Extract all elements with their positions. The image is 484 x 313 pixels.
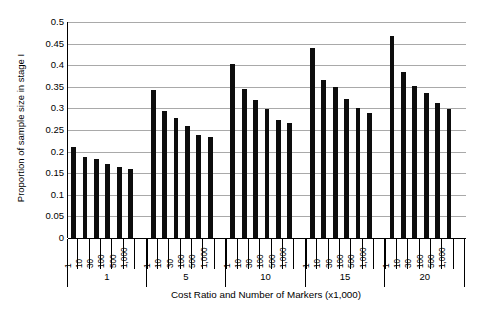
y-tick-label: 0.1 <box>34 190 64 200</box>
y-tick-label: 0.25 <box>34 125 64 135</box>
x-category-label: 500 <box>268 254 277 268</box>
x-category-label: 1,000 <box>200 248 209 269</box>
x-category-label: 30 <box>245 259 254 268</box>
x-category-label: 1,000 <box>438 248 447 269</box>
bar <box>424 93 429 238</box>
bar <box>162 111 167 238</box>
x-category-label: 500 <box>188 254 197 268</box>
gridline <box>68 22 466 23</box>
gridline <box>68 44 466 45</box>
x-category-label: 30 <box>166 259 175 268</box>
bar-chart-figure: Proportion of sample size in stage I 0.5… <box>0 0 484 313</box>
x-category-label: 10 <box>313 259 322 268</box>
x-group-label: 1 <box>67 269 147 287</box>
x-category-label: 10 <box>75 259 84 268</box>
bar <box>367 113 372 238</box>
x-category-label: 30 <box>404 259 413 268</box>
y-tick-label: 0.45 <box>34 39 64 49</box>
x-category-label: 100 <box>256 254 265 268</box>
x-category-spacer <box>454 239 465 269</box>
bar <box>196 135 201 238</box>
bar <box>333 87 338 238</box>
bar <box>412 86 417 238</box>
x-category-cell: 1,000 <box>363 239 374 269</box>
x-category-label: 1 <box>382 263 391 268</box>
x-group-label: 5 <box>147 269 227 287</box>
bar <box>208 137 213 238</box>
bar <box>117 167 122 238</box>
x-category-label: 1 <box>143 263 152 268</box>
plot-area <box>67 22 466 238</box>
x-category-label: 30 <box>325 259 334 268</box>
bar <box>105 164 110 238</box>
x-category-label: 100 <box>177 254 186 268</box>
x-category-label: 1 <box>223 263 232 268</box>
bar <box>310 48 315 238</box>
x-group-label: 10 <box>226 269 306 287</box>
x-category-cell: 1,000 <box>283 239 294 269</box>
x-category-label: 100 <box>336 254 345 268</box>
x-axis-category-labels: 110301005001,000110301005001,00011030100… <box>67 239 465 269</box>
x-category-label: 10 <box>393 259 402 268</box>
x-category-label: 1,000 <box>279 248 288 269</box>
bar <box>128 169 133 238</box>
x-category-label: 1,000 <box>359 248 368 269</box>
y-axis-tick-labels: 0.50.450.40.350.30.250.20.150.10.050 <box>34 0 64 313</box>
x-category-cell: 1,000 <box>203 239 214 269</box>
y-axis-title: Proportion of sample size in stage I <box>14 18 28 238</box>
bar <box>253 100 258 238</box>
x-axis-group-labels: 15101520 <box>67 269 465 287</box>
bar <box>185 126 190 238</box>
x-category-label: 10 <box>154 259 163 268</box>
y-tick-label: 0.35 <box>34 82 64 92</box>
y-tick-label: 0.05 <box>34 211 64 221</box>
x-category-label: 100 <box>416 254 425 268</box>
bar <box>356 108 361 238</box>
bar <box>230 64 235 238</box>
bar <box>435 103 440 238</box>
x-category-label: 500 <box>427 254 436 268</box>
bar <box>265 109 270 238</box>
y-tick-label: 0 <box>34 233 64 243</box>
bar <box>276 120 281 238</box>
y-tick-label: 0.3 <box>34 103 64 113</box>
y-tick-label: 0.5 <box>34 17 64 27</box>
bar <box>390 36 395 238</box>
bar <box>321 80 326 238</box>
x-group-label: 20 <box>385 269 465 287</box>
x-category-cell: 1,000 <box>442 239 453 269</box>
x-category-label: 500 <box>109 254 118 268</box>
bar <box>71 147 76 238</box>
bar <box>242 89 247 238</box>
bar <box>287 123 292 238</box>
bar <box>401 72 406 238</box>
x-category-label: 10 <box>234 259 243 268</box>
bar <box>151 90 156 238</box>
bar <box>174 118 179 238</box>
gridline <box>68 87 466 88</box>
x-category-label: 1 <box>302 263 311 268</box>
bar <box>83 157 88 238</box>
x-category-label: 1 <box>64 263 73 268</box>
gridline <box>68 65 466 66</box>
x-category-label: 100 <box>97 254 106 268</box>
x-axis-title: Cost Ratio and Number of Markers (x1,000… <box>67 289 465 301</box>
x-category-label: 30 <box>86 259 95 268</box>
bar <box>94 159 99 238</box>
y-tick-label: 0.15 <box>34 168 64 178</box>
x-category-label: 1,000 <box>120 248 129 269</box>
bar <box>344 99 349 238</box>
y-tick-label: 0.2 <box>34 147 64 157</box>
bar <box>447 109 452 238</box>
y-tick-label: 0.4 <box>34 60 64 70</box>
x-category-cell: 1,000 <box>124 239 135 269</box>
x-category-label: 500 <box>347 254 356 268</box>
x-group-label: 15 <box>306 269 386 287</box>
